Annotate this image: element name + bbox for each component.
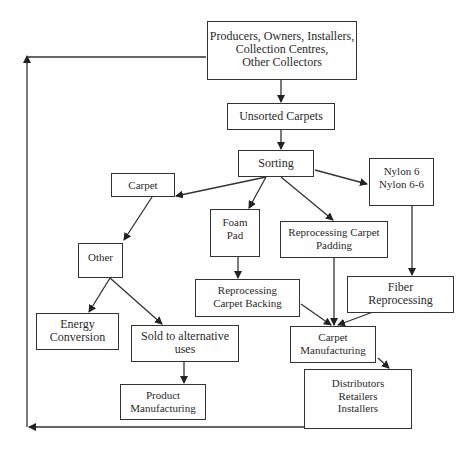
node-label: Retailers [338,390,377,403]
node-label: Foam [222,216,247,229]
edge-carpet-mfg-distributors [378,358,389,368]
edge-return-loop-vertical [27,57,206,427]
node-label: Reprocessing [368,294,433,307]
edge-carpet-other [124,197,152,240]
node-carpet: Carpet [111,173,175,197]
node-fiber-reprocessing: Fiber Reprocessing [347,276,454,313]
node-label: Manufacturing [300,344,365,357]
edge-sorting-carpet [176,177,266,196]
node-label: Carpet [128,179,157,192]
edge-sorting-nylon [315,170,367,184]
node-label: Nylon 6-6 [379,178,424,191]
edge-other-energy [89,278,110,312]
node-label: uses [175,343,196,356]
node-foam-pad: Foam Pad [210,209,260,257]
node-nylon: Nylon 6 Nylon 6-6 [369,158,434,206]
carpet-recycling-flowchart: Producers, Owners, Installers, Collectio… [0,0,475,451]
node-carpet-manufacturing: Carpet Manufacturing [290,326,376,363]
node-label: Reprocessing [218,284,277,297]
node-label: Sorting [258,157,293,170]
edge-sorting-reproc-padding [281,177,333,220]
edge-fiber-reproc-carpet-mfg [338,312,373,325]
node-sorting: Sorting [238,150,314,177]
node-label: Product [146,389,180,402]
node-distributors-retailers-installers: Distributors Retailers Installers [304,369,412,429]
node-label: Conversion [50,331,105,344]
node-producers: Producers, Owners, Installers, Collectio… [207,21,357,80]
node-label: Carpet [318,331,347,344]
node-other: Other [78,243,123,278]
node-label: Other [88,251,113,264]
node-reprocessing-carpet-backing: Reprocessing Carpet Backing [195,279,300,317]
edge-sorting-foam-pad [249,177,266,208]
node-product-manufacturing: Product Manufacturing [120,384,206,420]
node-label: Installers [338,402,378,415]
node-label: Other Collectors [242,56,322,69]
node-label: Manufacturing [130,402,195,415]
node-label: Nylon 6 [384,165,420,178]
node-unsorted-carpets: Unsorted Carpets [227,103,335,130]
node-reprocessing-carpet-padding: Reprocessing Carpet Padding [280,221,388,258]
node-energy-conversion: Energy Conversion [36,313,119,350]
node-label: Carpet Backing [213,297,282,310]
node-label: Distributors [332,377,385,390]
node-sold-to-alternative-uses: Sold to alternative uses [131,325,239,362]
edge-reproc-backing-carpet-mfg [301,304,331,325]
node-label: Unsorted Carpets [239,110,323,123]
node-label: Reprocessing Carpet [288,226,379,239]
node-label: Pad [227,229,244,242]
node-label: Padding [316,239,352,252]
